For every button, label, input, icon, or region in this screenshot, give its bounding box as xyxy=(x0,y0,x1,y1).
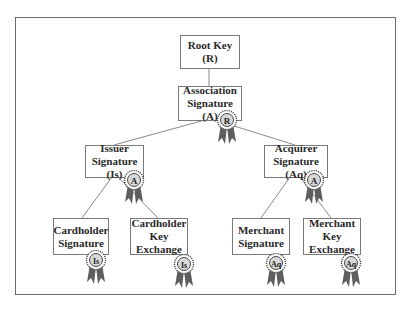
svg-text:A: A xyxy=(311,176,318,186)
node-label: Key xyxy=(132,230,187,243)
edge-acquirer-merchant-signature xyxy=(261,177,290,218)
node-label: Root Key xyxy=(188,39,232,52)
node-label: Acquirer xyxy=(265,142,327,155)
seal-ribbon-icon: R xyxy=(216,110,238,144)
node-label: Issuer xyxy=(86,142,143,155)
node-label: Cardholder xyxy=(132,217,187,230)
seal-ribbon-icon: Is xyxy=(173,254,195,288)
seal-ribbon-icon: Aq xyxy=(340,253,362,287)
node-label: Key xyxy=(309,230,355,243)
node-label: Merchant xyxy=(238,224,284,237)
edge-issuer-cardholder-signature xyxy=(82,177,112,218)
node-merchant-key-exchange: MerchantKeyExchange xyxy=(303,218,361,255)
svg-text:Aq: Aq xyxy=(346,260,357,269)
svg-text:Is: Is xyxy=(93,257,99,266)
seal-ribbon-icon: A xyxy=(303,170,325,204)
svg-text:Aq: Aq xyxy=(271,260,282,269)
node-label: (R) xyxy=(188,52,232,65)
node-cardholder-key-exchange: CardholderKeyExchange xyxy=(130,218,188,255)
svg-text:R: R xyxy=(224,116,231,126)
svg-text:Is: Is xyxy=(181,261,187,270)
node-label: Cardholder xyxy=(54,224,109,237)
svg-text:A: A xyxy=(131,176,138,186)
node-label: Signature xyxy=(54,237,109,250)
node-root-key: Root Key(R) xyxy=(180,35,240,69)
node-label: Merchant xyxy=(309,217,355,230)
seal-ribbon-icon: A xyxy=(123,170,145,204)
node-label: Signature xyxy=(238,237,284,250)
seal-ribbon-icon: Is xyxy=(85,250,107,284)
node-merchant-signature: MerchantSignature xyxy=(232,218,290,255)
seal-ribbon-icon: Aq xyxy=(265,253,287,287)
node-label: Association xyxy=(179,84,241,97)
